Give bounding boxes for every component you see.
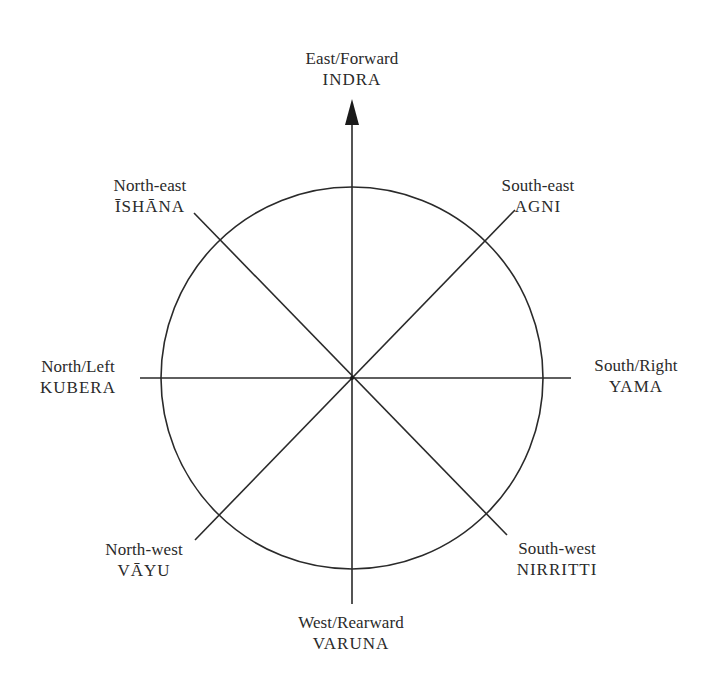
direction-north: North/Left bbox=[40, 356, 116, 377]
label-southwest: South-west NIRRITTI bbox=[517, 538, 598, 580]
label-north: North/Left KUBERA bbox=[40, 356, 116, 398]
direction-east: East/Forward bbox=[306, 48, 399, 69]
deity-nirritti: NIRRITTI bbox=[517, 559, 598, 580]
label-northeast: North-east ĪSHĀNA bbox=[114, 175, 187, 217]
label-south: South/Right YAMA bbox=[594, 355, 677, 397]
arrow-up-icon bbox=[345, 99, 359, 125]
axis-diagonal-ne-sw bbox=[194, 213, 507, 535]
direction-southwest: South-west bbox=[517, 538, 598, 559]
direction-southeast: South-east bbox=[502, 175, 575, 196]
deity-indra: INDRA bbox=[306, 69, 399, 90]
deity-kubera: KUBERA bbox=[40, 377, 116, 398]
label-southeast: South-east AGNI bbox=[502, 175, 575, 217]
label-west: West/Rearward VARUNA bbox=[298, 612, 404, 654]
deity-varuna: VARUNA bbox=[298, 633, 404, 654]
deity-agni: AGNI bbox=[502, 196, 575, 217]
direction-northeast: North-east bbox=[114, 175, 187, 196]
direction-west: West/Rearward bbox=[298, 612, 404, 633]
deity-yama: YAMA bbox=[594, 376, 677, 397]
deity-ishana: ĪSHĀNA bbox=[114, 196, 187, 217]
center-point bbox=[350, 376, 354, 380]
axis-diagonal-se-nw bbox=[195, 210, 515, 540]
direction-south: South/Right bbox=[594, 355, 677, 376]
label-northwest: North-west VĀYU bbox=[105, 539, 182, 581]
direction-northwest: North-west bbox=[105, 539, 182, 560]
label-east: East/Forward INDRA bbox=[306, 48, 399, 90]
deity-vayu: VĀYU bbox=[105, 560, 182, 581]
